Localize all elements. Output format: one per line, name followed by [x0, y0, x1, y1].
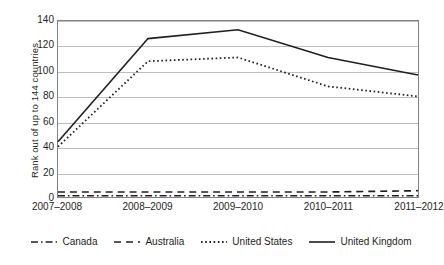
x-axis-tick-label: 2011–2012	[394, 201, 443, 213]
y-axis-tick-label: 80	[8, 91, 54, 101]
legend-swatch-solid-icon	[309, 238, 335, 246]
y-axis-tick-label: 120	[8, 40, 54, 50]
legend-label: Canada	[62, 236, 97, 247]
x-axis-tick-label: 2009–2010	[213, 201, 263, 213]
y-axis-tick-label: 140	[8, 15, 54, 25]
series-line	[58, 191, 418, 192]
legend-label: United Kingdom	[340, 236, 411, 247]
plot-area	[57, 20, 419, 198]
legend-swatch-dashed-icon	[114, 238, 140, 246]
series-line	[58, 30, 418, 142]
legend-label: United States	[232, 236, 292, 247]
legend-swatch-dotted-icon	[201, 238, 227, 246]
x-axis-tick-label: 2007–2008	[32, 201, 82, 213]
x-axis-tick-label: 2008–2009	[122, 201, 172, 213]
x-axis-tick-label: 2010–2011	[304, 201, 353, 213]
series-line	[58, 57, 418, 146]
legend-item[interactable]: Canada	[31, 236, 97, 247]
y-axis-tick-label: 40	[8, 142, 54, 152]
legend-item[interactable]: United Kingdom	[309, 236, 411, 247]
legend-item[interactable]: United States	[201, 236, 292, 247]
x-axis-tick-labels: 2007–20082008–20092009–20102010–20112011…	[57, 201, 419, 217]
y-axis-tick-labels: 140120100806040200	[8, 20, 54, 198]
series-lines	[58, 21, 418, 197]
y-axis-tick-label: 100	[8, 66, 54, 76]
y-axis-tick-label: 60	[8, 117, 54, 127]
y-axis-tick-label: 20	[8, 168, 54, 178]
legend-label: Australia	[145, 236, 184, 247]
legend-swatch-dash-dot-icon	[31, 238, 57, 246]
legend-item[interactable]: Australia	[114, 236, 184, 247]
chart-legend: CanadaAustraliaUnited StatesUnited Kingd…	[0, 236, 443, 247]
